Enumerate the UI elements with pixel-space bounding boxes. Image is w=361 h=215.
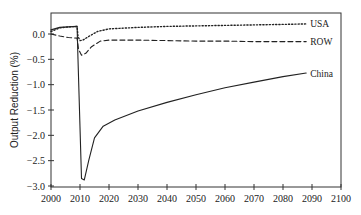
series-label-row: ROW [310,37,332,47]
y-axis-ticks: 0.0−0.5−1.0−1.5−2.0−2.5−3.0 [27,29,54,192]
y-tick-label: −1.5 [27,105,45,116]
x-tick-label: 2040 [157,193,177,204]
x-tick-label: 2060 [215,193,235,204]
y-tick-label: −1.0 [27,79,45,90]
y-axis-title: Output Reduction (%) [9,52,20,148]
x-tick-label: 2080 [273,193,293,204]
x-tick-label: 2090 [302,193,322,204]
series-line-row [51,34,306,55]
y-tick-label: −2.0 [27,130,45,141]
x-tick-label: 2010 [70,193,90,204]
y-tick-label: −3.0 [27,181,45,192]
series-line-china [51,26,306,180]
x-tick-label: 2030 [128,193,148,204]
series-line-usa [51,24,306,41]
x-tick-label: 2070 [244,193,264,204]
series-labels: USAROWChina [310,19,333,78]
x-tick-label: 2100 [331,193,351,204]
y-tick-label: −2.5 [27,155,45,166]
line-chart: 0.0−0.5−1.0−1.5−2.0−2.5−3.0 200020102020… [0,0,361,215]
plot-frame [51,13,341,187]
y-tick-label: 0.0 [33,29,46,40]
series-label-usa: USA [310,19,329,29]
x-tick-label: 2050 [186,193,206,204]
x-tick-label: 2000 [41,193,61,204]
series-lines [51,24,306,180]
series-label-china: China [310,69,333,79]
x-tick-label: 2020 [99,193,119,204]
y-tick-label: −0.5 [27,54,45,65]
